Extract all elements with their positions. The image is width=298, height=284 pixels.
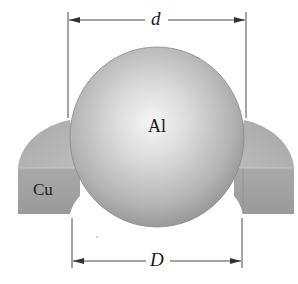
d-arrow-left-icon — [69, 17, 80, 23]
sphere-in-ring-diagram: d Al Cu D — [0, 0, 298, 284]
D-arrow-left-icon — [73, 258, 84, 264]
diagram-canvas — [0, 0, 298, 284]
aluminum-sphere — [70, 47, 244, 227]
sphere-label: Al — [148, 117, 166, 135]
D-arrow-right-icon — [230, 258, 241, 264]
ring-label: Cu — [33, 181, 53, 198]
top-dimension-label: d — [151, 9, 161, 28]
d-arrow-right-icon — [234, 17, 245, 23]
bottom-dimension-label: D — [150, 250, 164, 269]
speck — [96, 236, 98, 238]
